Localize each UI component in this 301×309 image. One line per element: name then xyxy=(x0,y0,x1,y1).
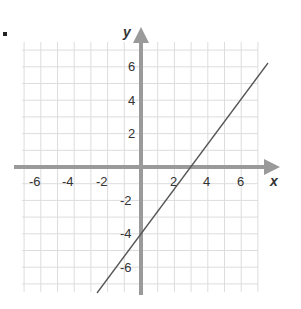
x-tick: 6 xyxy=(237,174,244,189)
coordinate-plane: x y -6 -4 -2 2 4 6 6 4 2 -2 -4 -6 xyxy=(0,0,301,309)
x-axis-label: x xyxy=(269,173,279,189)
x-tick: -6 xyxy=(29,174,41,189)
y-tick: 2 xyxy=(128,126,135,141)
x-tick-labels: -6 -4 -2 2 4 6 xyxy=(29,174,244,189)
y-tick: 4 xyxy=(128,93,135,108)
x-axis xyxy=(14,159,280,175)
x-tick: 4 xyxy=(203,174,210,189)
y-tick: -6 xyxy=(120,260,132,275)
y-tick: -4 xyxy=(120,226,132,241)
x-tick: -4 xyxy=(62,174,74,189)
x-tick: -2 xyxy=(96,174,108,189)
y-axis-label: y xyxy=(122,24,132,40)
y-tick: 6 xyxy=(128,59,135,74)
y-tick: -2 xyxy=(120,193,132,208)
